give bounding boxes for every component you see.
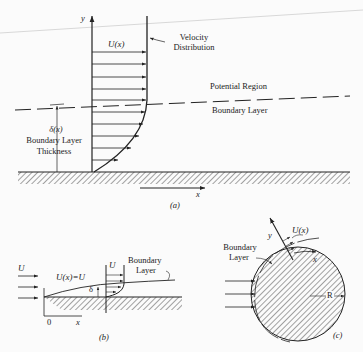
diagram-graphics <box>0 0 363 352</box>
panel-b <box>18 265 182 316</box>
freestream-velocity-label: U(x) <box>108 40 125 49</box>
radius-label: R <box>326 291 334 300</box>
x-axis-label: x <box>196 190 200 199</box>
origin-label: 0 <box>47 318 51 327</box>
y-axis-label-c: y <box>268 231 272 240</box>
delta-label: δ <box>89 285 93 294</box>
x-axis-label-b: x <box>76 318 80 327</box>
boundary-layer-label-b-2: Layer <box>136 266 156 275</box>
boundary-layer-label-c-2: Layer <box>219 253 259 262</box>
potential-region-label: Potential Region <box>210 82 267 91</box>
edge-velocity-label: U(x)=U <box>56 273 85 282</box>
inflow-u-label: U <box>18 264 25 273</box>
caption-c: (c) <box>333 331 342 340</box>
panel-c <box>225 218 345 342</box>
boundary-layer-label: Boundary Layer <box>212 106 267 115</box>
velocity-distribution-label-1: Velocity <box>168 33 220 42</box>
delta-x-label: δ(x) <box>44 125 68 134</box>
boundary-layer-label-b-1: Boundary <box>128 256 162 265</box>
thickness-label-1: Boundary Layer <box>14 136 94 145</box>
y-axis-label: y <box>81 14 85 23</box>
boundary-layer-label-c-1: Boundary <box>215 243 265 252</box>
caption-a: (a) <box>170 201 180 210</box>
velocity-label-c: U(x) <box>292 226 309 235</box>
velocity-distribution-label-2: Distribution <box>168 43 220 52</box>
boundary-layer-diagram: y U(x) Velocity Distribution Potential R… <box>0 0 363 352</box>
profile-u-label: U <box>109 261 116 270</box>
caption-b: (b) <box>99 333 109 342</box>
thickness-label-2: Thickness <box>14 147 94 156</box>
x-axis-label-c: x <box>313 255 317 264</box>
